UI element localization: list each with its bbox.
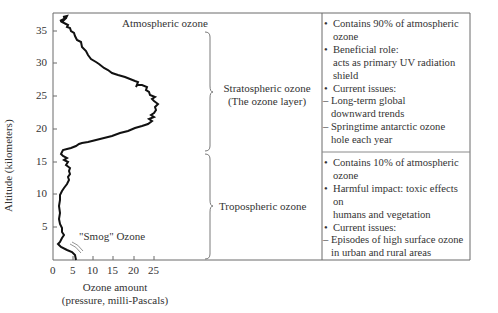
y-tick-label-5: 5 <box>42 220 48 233</box>
tropospheric-label: Tropospheric ozone <box>219 200 306 213</box>
x-tick-label-25: 25 <box>148 264 159 277</box>
bullet-icon: • <box>324 222 328 235</box>
y-tick-label-15: 15 <box>36 155 47 168</box>
y-axis-title: Altitude (kilometers) <box>2 119 14 212</box>
stratospheric-info-panel: • Contains 90% of atmospheric ozone • Be… <box>323 18 469 147</box>
trop-issue-1: – Episodes of high surface ozone in urba… <box>323 234 469 260</box>
y-tick-label-35: 35 <box>36 24 47 37</box>
y-tick-label-10: 10 <box>36 187 47 200</box>
x-ticks <box>73 256 154 260</box>
ozone-profile-line <box>58 16 158 260</box>
tropospheric-brace <box>205 154 213 259</box>
stratospheric-label-line2: (The ozone layer) <box>214 95 320 108</box>
bullet-icon: • <box>324 157 328 170</box>
x-axis-title-line1: Ozone amount <box>75 281 155 294</box>
atmospheric-ozone-label: Atmospheric ozone <box>122 17 208 30</box>
bullet-icon: • <box>324 18 328 31</box>
y-tick-label-20: 20 <box>36 122 47 135</box>
trop-bullet-1: • Contains 10% of atmospheric ozone <box>323 157 469 183</box>
x-tick-label-10: 10 <box>87 264 98 277</box>
y-tick-label-30: 30 <box>36 56 47 69</box>
strat-bullet-2: • Beneficial role: acts as primary UV ra… <box>323 44 469 83</box>
strat-bullet-3: • Current issues: <box>323 83 469 96</box>
x-axis-title-line2: (pressure, milli-Pascals) <box>55 294 175 307</box>
trop-bullet-2: • Harmful impact: toxic effects on human… <box>323 183 469 222</box>
y-tick-label-25: 25 <box>36 89 47 102</box>
smog-ozone-label: "Smog" Ozone <box>79 230 145 243</box>
x-tick-label-15: 15 <box>107 264 118 277</box>
stratospheric-label-line1: Stratospheric ozone <box>214 82 320 95</box>
strat-bullet-1: • Contains 90% of atmospheric ozone <box>323 18 469 44</box>
strat-issue-2: – Springtime antarctic ozone hole each y… <box>323 121 469 147</box>
x-tick-label-5: 5 <box>70 264 76 277</box>
tropospheric-info-panel: • Contains 10% of atmospheric ozone • Ha… <box>323 157 469 260</box>
x-tick-label-20: 20 <box>128 264 139 277</box>
x-tick-label-0: 0 <box>50 264 56 277</box>
strat-issue-1: – Long-term global downward trends <box>323 95 469 121</box>
bullet-icon: • <box>324 183 328 196</box>
trop-bullet-3: • Current issues: <box>323 222 469 235</box>
bullet-icon: • <box>324 44 328 57</box>
y-ticks <box>53 31 57 227</box>
bullet-icon: • <box>324 83 328 96</box>
stratospheric-brace <box>205 32 213 151</box>
